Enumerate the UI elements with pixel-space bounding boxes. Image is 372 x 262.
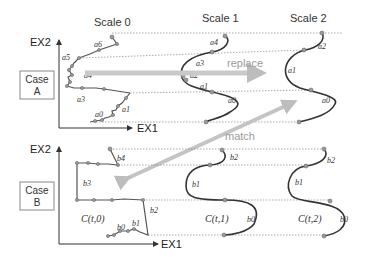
label-a1-2: a1 — [288, 66, 296, 75]
curve-label-c1: C(t,1) — [205, 213, 229, 225]
case-a-scale2-curve — [285, 33, 335, 122]
label-a0-1: a0 — [228, 96, 236, 105]
case-b-y-axis-label: EX2 — [30, 143, 51, 155]
label-a1-0: a1 — [122, 105, 130, 114]
case-a-label-line2: A — [34, 86, 41, 97]
multiscale-curve-diagram: Scale 0 Scale 1 Scale 2 EX2 EX1 Case A — [0, 0, 372, 262]
case-a-y-axis-label: EX2 — [30, 36, 51, 48]
label-b1-0: b1 — [132, 219, 140, 228]
case-b-x-axis-label: EX1 — [161, 238, 182, 250]
guide-line — [80, 50, 304, 58]
label-b1-2: b1 — [295, 178, 303, 187]
case-a-panel: EX2 EX1 Case A a6 a5 a4 a3 a1 a0 — [20, 31, 342, 134]
label-b2-0: b2 — [150, 206, 158, 215]
label-b3-0: b3 — [83, 179, 91, 188]
label-b2-2: b2 — [327, 156, 335, 165]
label-a5-0: a5 — [62, 53, 70, 62]
label-a0-2: a0 — [322, 96, 330, 105]
curve-label-c2: C(t,2) — [298, 213, 322, 225]
label-b4-0: b4 — [117, 154, 125, 163]
case-a-label-line1: Case — [25, 74, 49, 85]
match-label: match — [225, 130, 255, 142]
case-a-scale1-points — [181, 34, 227, 124]
label-a1-1: a1 — [200, 82, 208, 91]
case-b-label-line2: B — [34, 197, 41, 208]
label-a2-2: a2 — [318, 42, 326, 51]
label-a4-1: a4 — [210, 38, 218, 47]
curve-label-c0: C(t,0) — [81, 213, 105, 225]
case-b-label-line1: Case — [25, 185, 49, 196]
label-a6-0: a6 — [94, 40, 102, 49]
label-b0-1: b0 — [247, 215, 255, 224]
label-a3-1: a3 — [196, 59, 204, 68]
label-a3-0: a3 — [77, 95, 85, 104]
scale-1-label: Scale 1 — [202, 12, 239, 24]
case-a-x-axis-label: EX1 — [137, 122, 158, 134]
scale-0-label: Scale 0 — [94, 16, 131, 28]
label-a0-0: a0 — [95, 110, 103, 119]
label-b0-2: b0 — [340, 215, 348, 224]
case-b-panel: EX2 EX1 Case B b4 b3 b2 b1 b0 C(t,0) — [20, 143, 348, 250]
replace-label: replace — [227, 57, 263, 69]
label-b1-1: b1 — [192, 180, 200, 189]
label-b2-1: b2 — [230, 153, 238, 162]
scale-2-label: Scale 2 — [290, 12, 327, 24]
guide-line — [130, 90, 311, 93]
label-b0-0: b0 — [117, 223, 125, 232]
